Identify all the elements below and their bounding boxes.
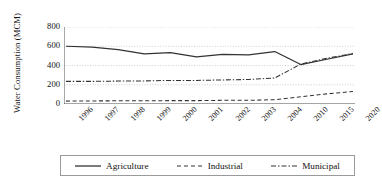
chart-legend: Agriculture Industrial Municipal [60, 155, 355, 176]
plot-svg [64, 27, 355, 104]
legend-swatch-solid-icon [75, 162, 101, 170]
legend-swatch-dashdot-icon [271, 162, 297, 170]
y-axis-title: Water Consumption (MCM) [12, 0, 22, 128]
y-axis-tick-label: 600 [30, 41, 60, 50]
plot-area [64, 27, 355, 104]
series-line-municipal [66, 53, 353, 81]
x-axis-tick-label: 2020 [364, 105, 382, 123]
y-axis-tick-labels: 8006004002000 [28, 0, 60, 185]
x-axis-tick-label: 2004 [286, 105, 304, 123]
legend-item-agriculture: Agriculture [75, 161, 148, 171]
x-axis-tick-label: 1997 [103, 105, 121, 123]
series-line-industrial [66, 91, 353, 101]
x-axis-tick-label: 2010 [312, 105, 330, 123]
legend-swatch-dashed-icon [177, 162, 203, 170]
x-axis-tick-label: 2000 [181, 105, 199, 123]
legend-item-industrial: Industrial [177, 161, 243, 171]
legend-label-industrial: Industrial [208, 161, 243, 171]
x-axis-tick-label: 2015 [338, 105, 356, 123]
x-axis-tick-label: 1996 [77, 105, 95, 123]
y-axis-tick-label: 0 [30, 99, 60, 108]
y-axis-tick-label: 400 [30, 61, 60, 70]
y-axis-tick-label: 200 [30, 80, 60, 89]
x-axis-tick-label: 2002 [233, 105, 251, 123]
x-axis-tick-label: 2001 [207, 105, 225, 123]
x-axis-tick-label: 1998 [129, 105, 147, 123]
legend-label-agriculture: Agriculture [106, 161, 148, 171]
y-axis-tick-label: 800 [30, 22, 60, 31]
x-axis-tick-labels: 1996199719981999200020012002200320042010… [64, 105, 355, 145]
x-axis-tick-label: 2003 [259, 105, 277, 123]
x-axis-tick-label: 1999 [155, 105, 173, 123]
legend-label-municipal: Municipal [302, 161, 340, 171]
legend-item-municipal: Municipal [271, 161, 340, 171]
